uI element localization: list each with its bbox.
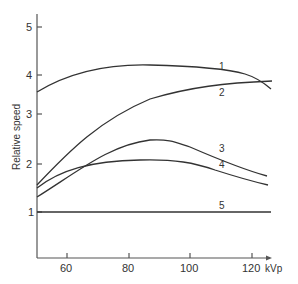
x-ticks: 60 80 100 120 kVp (60, 253, 283, 274)
y-ticks: 5 4 3 2 1 (26, 21, 42, 218)
y-tick-label: 5 (26, 21, 32, 33)
curve-label-3: 3 (219, 143, 225, 154)
x-tick-label: 120 (242, 262, 260, 274)
line-chart: 5 4 3 2 1 60 80 100 120 kVp Relative spe… (0, 0, 298, 284)
y-axis-title: Relative speed (11, 104, 22, 170)
curve-label-4: 4 (219, 159, 225, 170)
curve-label-2: 2 (219, 87, 225, 98)
x-tick-label: 60 (60, 262, 72, 274)
x-axis-unit: kVp (265, 263, 283, 274)
y-tick-label: 3 (26, 108, 32, 120)
curve-label-5: 5 (219, 200, 225, 211)
y-tick-label: 1 (28, 206, 34, 218)
curve-1 (37, 65, 271, 92)
y-tick-label: 2 (26, 158, 32, 170)
curve-3 (37, 140, 267, 197)
curve-label-1: 1 (219, 61, 225, 72)
x-axis-arrow-icon (266, 256, 272, 261)
x-tick-label: 80 (122, 262, 134, 274)
y-tick-label: 4 (26, 69, 32, 81)
x-tick-label: 100 (180, 262, 198, 274)
